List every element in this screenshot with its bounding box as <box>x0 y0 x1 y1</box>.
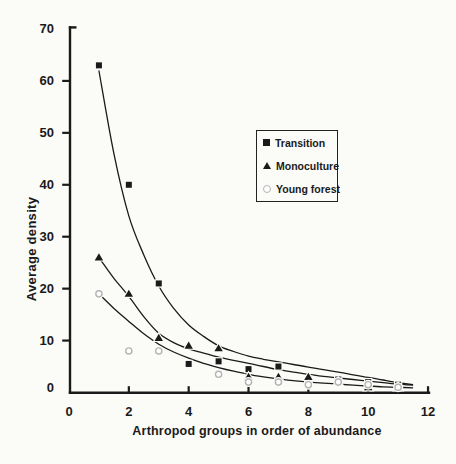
tick-label: 2 <box>125 404 132 419</box>
axes: 010203040506070024681012 <box>40 21 436 418</box>
tick-label: 4 <box>185 404 193 419</box>
data-points <box>94 62 403 392</box>
tick-label: 40 <box>40 177 54 192</box>
fit-curves <box>99 71 413 388</box>
x-axis-label: Arthropod groups in order of abundance <box>132 424 381 438</box>
legend-label-young-forest: Young forest <box>276 183 340 195</box>
series-transition <box>96 62 401 387</box>
fit-curve-transition <box>99 71 413 385</box>
monoculture-point <box>214 344 222 351</box>
fit-curve-monoculture <box>99 258 413 386</box>
legend-item-young-forest: Young forest <box>263 183 337 195</box>
legend-label-transition: Transition <box>275 137 325 149</box>
transition-point <box>186 361 192 367</box>
tick-label: 20 <box>40 281 54 296</box>
monoculture-point <box>95 253 103 260</box>
chart-plot: 010203040506070024681012 <box>0 0 456 464</box>
tick-label: 8 <box>305 404 312 419</box>
tick-label: 0 <box>65 404 72 419</box>
legend-item-monoculture: Monoculture <box>263 160 337 172</box>
young-forest-point <box>96 291 102 297</box>
monoculture-point <box>184 342 192 349</box>
young-forest-point <box>275 379 281 385</box>
young-forest-point <box>395 384 401 390</box>
legend-label-monoculture: Monoculture <box>276 160 339 172</box>
young-forest-point <box>216 371 222 377</box>
tick-label: 50 <box>40 125 54 140</box>
legend-item-transition: Transition <box>263 137 337 149</box>
legend: Transition Monoculture Young forest <box>256 130 338 202</box>
transition-point <box>275 364 281 370</box>
young-forest-point <box>365 382 371 388</box>
young-forest-point <box>245 379 251 385</box>
y-axis-label: Average density <box>24 197 39 301</box>
tick-label: 30 <box>40 229 54 244</box>
filled-square-icon <box>263 139 270 146</box>
young-forest-point <box>156 348 162 354</box>
young-forest-point <box>305 382 311 388</box>
figure: 010203040506070024681012 Average density… <box>0 0 456 464</box>
tick-label: 6 <box>245 404 252 419</box>
fit-curve-young-forest <box>99 294 413 388</box>
transition-point <box>156 280 162 286</box>
tick-label: 60 <box>40 73 54 88</box>
tick-label: 0 <box>47 380 54 395</box>
tick-label: 10 <box>40 333 54 348</box>
tick-label: 10 <box>361 404 375 419</box>
young-forest-point <box>335 379 341 385</box>
transition-point <box>96 62 102 68</box>
open-circle-icon <box>263 185 271 193</box>
filled-triangle-icon <box>263 162 271 169</box>
tick-label: 12 <box>421 404 435 419</box>
tick-label: 70 <box>40 21 54 36</box>
monoculture-point <box>125 290 133 297</box>
transition-point <box>216 358 222 364</box>
transition-point <box>126 182 132 188</box>
young-forest-point <box>126 348 132 354</box>
